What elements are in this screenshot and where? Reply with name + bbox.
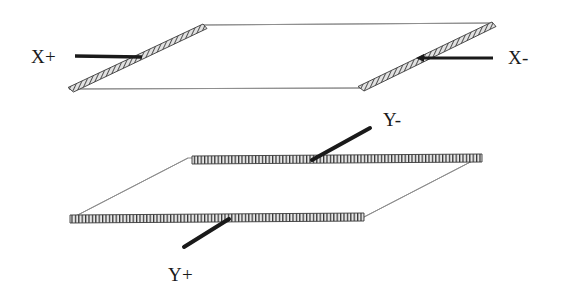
lower-plate-front-rail-yplus [70,213,364,223]
label-x-plus: X+ [31,46,56,67]
deflection-plates-diagram: X+ X- Y- Y+ [0,0,562,298]
diagram-canvas: X+ X- Y- Y+ [0,0,562,298]
lower-plate-back-rail-yminus [192,154,482,164]
x-plus-lead [75,56,142,57]
label-y-plus: Y+ [168,264,193,285]
label-y-minus: Y- [383,109,401,130]
label-x-minus: X- [508,47,528,68]
